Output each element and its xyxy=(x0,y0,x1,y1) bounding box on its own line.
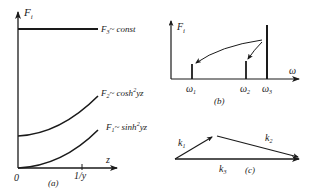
tick-label: 1/y xyxy=(74,170,87,181)
vector-label-k2: k2 xyxy=(265,132,272,144)
curve-f1 xyxy=(18,130,98,168)
origin-label: 0 xyxy=(14,172,19,183)
caption-b: (b) xyxy=(214,96,225,106)
figure: Fi z 0 1/y (a) F3~ const F2~ cosh2yz F1~… xyxy=(0,0,312,188)
curve-f2 xyxy=(18,96,98,136)
vector-k2 xyxy=(217,136,298,157)
transfer-arrow-1 xyxy=(196,40,262,63)
bar-label-omega1: ω1 xyxy=(186,83,196,95)
curve-f2-label: F2~ cosh2yz xyxy=(100,87,144,99)
panel-a: Fi z 0 1/y (a) F3~ const F2~ cosh2yz F1~… xyxy=(14,6,148,188)
caption-c: (c) xyxy=(245,165,255,175)
curve-f3-label: F3~ const xyxy=(100,24,136,35)
x-axis-label: z xyxy=(105,154,110,165)
curve-f1-label: F1~ sinh2yz xyxy=(105,121,148,133)
panel-c: k1 k2 k3 (c) xyxy=(175,132,299,175)
panel-b: Fi ω ω1 ω2 ω3 (b) xyxy=(171,21,299,106)
bar-label-omega3: ω3 xyxy=(262,83,272,95)
y-axis-label-b: Fi xyxy=(176,21,185,35)
x-axis-label-b: ω xyxy=(289,65,296,76)
y-axis-label: Fi xyxy=(23,6,33,21)
vector-label-k3: k3 xyxy=(219,163,226,175)
transfer-arrow-2 xyxy=(248,42,262,59)
vector-label-k1: k1 xyxy=(178,137,185,149)
bar-label-omega2: ω2 xyxy=(240,83,250,95)
caption-a: (a) xyxy=(48,178,59,188)
